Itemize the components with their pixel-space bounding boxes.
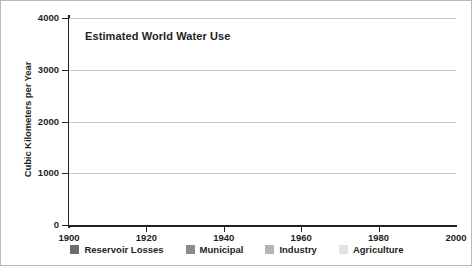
- chart-title: Estimated World Water Use: [85, 30, 231, 42]
- legend-swatch-icon: [70, 245, 79, 254]
- gridline: [69, 18, 456, 19]
- x-axis-line: [68, 225, 457, 227]
- legend-swatch-icon: [339, 245, 348, 254]
- legend-item-label: Agriculture: [353, 244, 404, 255]
- gridline: [69, 122, 456, 123]
- x-axis-tick-label: 1980: [354, 232, 404, 243]
- y-axis-tick-label: 4000: [1, 12, 59, 23]
- y-axis-tick-label: 0: [1, 219, 59, 230]
- x-axis-tick-label: 1940: [199, 232, 249, 243]
- chart-figure: Cubic Kilometers per Year 01000200030004…: [0, 0, 472, 266]
- y-axis-tick-label: 1000: [1, 167, 59, 178]
- legend-swatch-icon: [265, 245, 274, 254]
- x-axis-tick-label: 2000: [431, 232, 474, 243]
- gridline: [69, 70, 456, 71]
- x-axis-tick-label: 1960: [276, 232, 326, 243]
- y-axis-tick-label: 3000: [1, 64, 59, 75]
- y-axis-tick-label: 2000: [1, 116, 59, 127]
- legend-item[interactable]: Municipal: [186, 244, 244, 255]
- legend-item[interactable]: Agriculture: [339, 244, 404, 255]
- x-axis-tick-label: 1920: [121, 232, 171, 243]
- legend-item[interactable]: Industry: [265, 244, 316, 255]
- plot-area: [69, 18, 456, 225]
- chart-legend: Reservoir LossesMunicipalIndustryAgricul…: [1, 244, 473, 255]
- legend-item-label: Reservoir Losses: [84, 244, 163, 255]
- x-axis-tick-label: 1900: [44, 232, 94, 243]
- legend-item-label: Municipal: [200, 244, 244, 255]
- legend-item[interactable]: Reservoir Losses: [70, 244, 163, 255]
- gridline: [69, 173, 456, 174]
- legend-swatch-icon: [186, 245, 195, 254]
- legend-item-label: Industry: [279, 244, 316, 255]
